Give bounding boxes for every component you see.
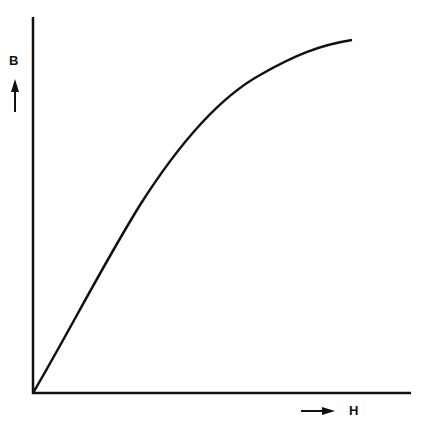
b-arrow-icon	[11, 79, 19, 112]
magnetization-curve	[33, 40, 352, 393]
x-axis-label: H	[349, 403, 358, 418]
y-axis-label: B	[9, 53, 18, 68]
h-arrow-icon	[301, 407, 335, 415]
bh-curve-diagram	[0, 0, 421, 430]
